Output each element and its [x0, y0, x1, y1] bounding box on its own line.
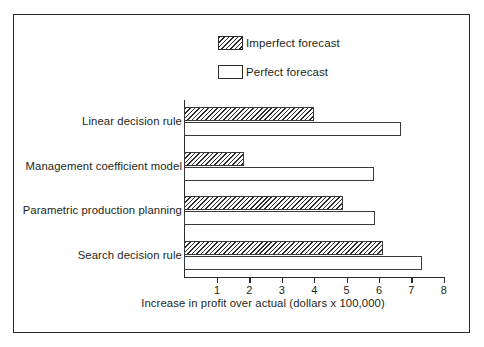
bar-perfect-search-decision-rule: [184, 256, 422, 270]
x-axis-tick-label-5: 5: [337, 284, 357, 296]
category-label-search-decision-rule: Search decision rule: [78, 249, 182, 261]
x-axis-tick-5: [347, 277, 348, 283]
chart-page: Imperfect forecast Perfect forecast Line…: [0, 0, 484, 347]
x-axis-title: Increase in profit over actual (dollars …: [0, 297, 484, 309]
x-axis-tick-label-6: 6: [369, 284, 389, 296]
x-axis-tick-2: [249, 277, 250, 283]
x-axis-title-text: Increase in profit over actual (dollars …: [141, 297, 385, 309]
bar-imperfect-parametric-production-planning: [184, 196, 343, 210]
x-axis-tick-3: [282, 277, 283, 283]
bar-imperfect-linear-decision-rule: [184, 107, 314, 121]
x-axis-tick-7: [411, 277, 412, 283]
x-axis-tick-label-2: 2: [239, 284, 259, 296]
x-axis-tick-4: [314, 277, 315, 283]
bar-perfect-management-coefficient-model: [184, 167, 374, 181]
x-axis-tick-label-8: 8: [434, 284, 454, 296]
x-axis-tick-1: [217, 277, 218, 283]
category-label-parametric-production-planning: Parametric production planning: [23, 204, 182, 216]
bar-perfect-linear-decision-rule: [184, 122, 401, 136]
x-axis-tick-label-4: 4: [304, 284, 324, 296]
x-axis-tick-label-7: 7: [401, 284, 421, 296]
x-axis-tick-6: [379, 277, 380, 283]
bar-imperfect-search-decision-rule: [184, 241, 383, 255]
plot-area: Linear decision rule Management coeffici…: [0, 0, 484, 347]
x-axis-tick-8: [444, 277, 445, 283]
x-axis-tick-label-3: 3: [272, 284, 292, 296]
x-axis-tick-label-1: 1: [207, 284, 227, 296]
category-label-linear-decision-rule: Linear decision rule: [82, 115, 182, 127]
category-label-management-coefficient-model: Management coefficient model: [26, 160, 182, 172]
bar-perfect-parametric-production-planning: [184, 211, 375, 225]
bar-imperfect-management-coefficient-model: [184, 152, 244, 166]
